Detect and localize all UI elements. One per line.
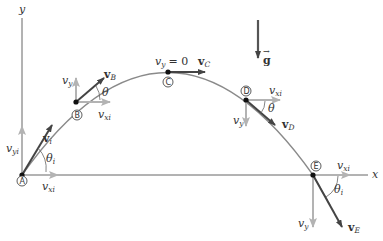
- vx-label-a: vxi: [42, 180, 55, 194]
- velocity-label-a: vi: [42, 132, 52, 146]
- velocity-label-b: vB: [103, 68, 116, 82]
- gravity-vector: g →: [258, 20, 271, 67]
- y-axis-label: y: [18, 3, 26, 16]
- point-marker-c: [165, 69, 170, 74]
- point-label-c: C: [166, 78, 172, 87]
- point-marker-b: [73, 99, 78, 104]
- point-marker-d: [243, 97, 248, 102]
- velocity-label-d: vD: [281, 118, 294, 132]
- angle-arc-b: [96, 86, 100, 100]
- vy-label-a: vyi: [6, 142, 19, 156]
- velocity-label-e: vE: [347, 221, 360, 235]
- point-label-d: D: [244, 87, 250, 96]
- point-d: D vxi vy vD θ: [233, 84, 294, 132]
- angle-label-d: θ: [268, 102, 275, 115]
- vx-label-e: vxi: [337, 159, 350, 173]
- point-label-e: E: [314, 162, 319, 171]
- vx-label-d: vxi: [269, 84, 282, 98]
- point-b: B vxi vy vB θ: [62, 68, 116, 122]
- point-marker-e: [310, 172, 315, 177]
- vy-zero-label: vy= 0: [155, 55, 188, 69]
- angle-arc-d: [261, 101, 265, 113]
- velocity-label-c: vC: [197, 55, 210, 69]
- projectile-diagram: x y g → A vxi vyi vi θi B vxi vy vB θ: [0, 0, 383, 241]
- trajectory-curve: [22, 73, 330, 206]
- vector-arrow-icon: →: [263, 47, 270, 56]
- angle-label-e: θi: [334, 183, 344, 197]
- vx-label-b: vxi: [98, 108, 111, 122]
- angle-label-a: θi: [46, 152, 56, 166]
- angle-label-b: θ: [102, 86, 109, 99]
- x-axis-label: x: [372, 168, 379, 181]
- vy-label-e: vy: [298, 217, 309, 231]
- point-a: A vxi vyi vi θi: [6, 125, 58, 194]
- vy-label-d: vy: [233, 114, 244, 128]
- axes: x y: [18, 3, 379, 181]
- point-label-b: B: [75, 111, 81, 120]
- vy-label-b: vy: [62, 74, 73, 88]
- point-c: C vy= 0 vC: [155, 55, 210, 87]
- point-label-a: A: [20, 177, 26, 186]
- point-e: E vxi vy vE θi: [298, 159, 360, 235]
